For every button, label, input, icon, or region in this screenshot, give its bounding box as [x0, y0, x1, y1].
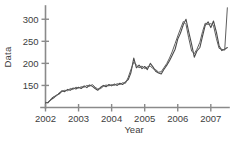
x-tick-label: 2004: [101, 113, 122, 124]
line-chart: 150200250300 200220032004200520062007 Da…: [0, 0, 233, 142]
plot-area: [46, 8, 228, 103]
x-axis-title: Year: [124, 124, 143, 135]
x-tick-label: 2006: [167, 113, 188, 124]
x-tick-label: 2003: [68, 113, 89, 124]
y-tick-label: 250: [23, 36, 39, 47]
series-line-1: [46, 19, 228, 103]
x-tick-label: 2005: [134, 113, 155, 124]
y-axis-title: Data: [2, 46, 13, 67]
y-tick-label: 300: [23, 14, 39, 25]
x-axis: 200220032004200520062007: [35, 104, 229, 124]
x-tick-label: 2002: [35, 113, 56, 124]
chart-container: 150200250300 200220032004200520062007 Da…: [0, 0, 233, 142]
x-tick-label: 2007: [200, 113, 221, 124]
y-tick-label: 150: [23, 80, 39, 91]
y-tick-label: 200: [23, 58, 39, 69]
y-axis: 150200250300: [23, 6, 49, 108]
x-axis-tick-labels: 200220032004200520062007: [35, 113, 221, 124]
y-axis-tick-labels: 150200250300: [23, 14, 39, 91]
